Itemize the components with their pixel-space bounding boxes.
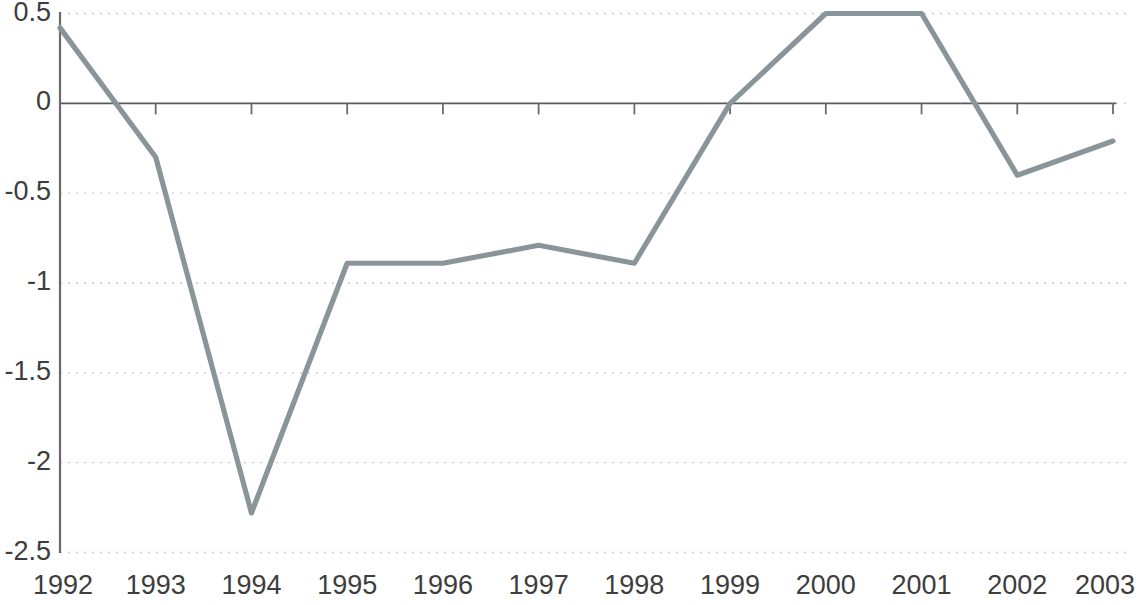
x-axis-label-1997: 1997 bbox=[509, 570, 569, 600]
x-axis-label-2002: 2002 bbox=[987, 570, 1047, 600]
x-axis-label-1996: 1996 bbox=[413, 570, 473, 600]
chart-canvas: 0.50-0.5-1-1.5-2-2.5 1992199319941995199… bbox=[0, 0, 1148, 605]
y-axis-label-0.5: 0.5 bbox=[13, 0, 51, 27]
y-axis-label--1.5: -1.5 bbox=[4, 356, 51, 386]
x-axis-label-1998: 1998 bbox=[604, 570, 664, 600]
x-axis-label-1995: 1995 bbox=[317, 570, 377, 600]
x-axis-label-1994: 1994 bbox=[221, 570, 281, 600]
y-axis-label--2: -2 bbox=[27, 446, 51, 476]
y-axis-label--1: -1 bbox=[27, 266, 51, 296]
y-axis-label-0: 0 bbox=[36, 86, 51, 116]
line-chart: 0.50-0.5-1-1.5-2-2.5 1992199319941995199… bbox=[0, 0, 1148, 605]
x-axis-label-2001: 2001 bbox=[892, 570, 952, 600]
chart-background bbox=[0, 0, 1148, 605]
x-axis-label-1992: 1992 bbox=[33, 570, 93, 600]
x-axis-label-1999: 1999 bbox=[700, 570, 760, 600]
x-axis-label-2003: 2003 bbox=[1075, 570, 1135, 600]
y-axis-label--2.5: -2.5 bbox=[4, 536, 51, 566]
y-axis-label--0.5: -0.5 bbox=[4, 176, 51, 206]
x-axis-label-2000: 2000 bbox=[796, 570, 856, 600]
x-axis-label-1993: 1993 bbox=[126, 570, 186, 600]
